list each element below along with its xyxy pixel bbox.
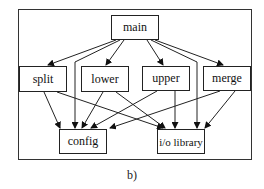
node-lower-label: lower	[91, 72, 118, 87]
node-merge: merge	[203, 66, 251, 91]
edge-main-merge	[155, 40, 223, 65]
edge-split-io	[57, 92, 163, 128]
edge-main-lower	[106, 40, 124, 65]
node-upper: upper	[142, 66, 190, 91]
figure-caption: b)	[0, 168, 264, 183]
node-merge-label: merge	[212, 71, 242, 86]
node-main: main	[111, 15, 159, 40]
node-split-label: split	[33, 72, 54, 87]
node-split: split	[19, 66, 67, 92]
node-io-library: i/o library	[157, 129, 205, 154]
edge-main-upper	[147, 40, 163, 65]
edge-merge-io	[205, 91, 235, 128]
node-main-label: main	[123, 20, 147, 35]
node-upper-label: upper	[152, 71, 179, 86]
node-config-label: config	[68, 134, 99, 149]
edge-main-split	[48, 40, 116, 65]
node-io-library-label: i/o library	[159, 136, 203, 148]
node-lower: lower	[81, 66, 129, 92]
edge-split-config	[44, 92, 60, 128]
edge-merge-config	[110, 91, 220, 128]
node-config: config	[59, 129, 107, 154]
